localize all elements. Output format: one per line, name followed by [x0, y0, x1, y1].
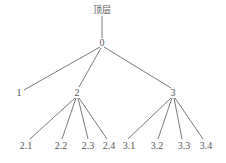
node-2.2-label: 2.2 — [55, 140, 68, 151]
node-2-label: 2 — [75, 87, 80, 98]
node-3.2-label: 3.2 — [151, 140, 164, 151]
node-2.3-label: 2.3 — [82, 140, 95, 151]
edge-0-2 — [79, 48, 101, 87]
node-2.4-label: 2.4 — [103, 140, 116, 151]
node-1-label: 1 — [17, 87, 22, 98]
tree-diagram: 顶层 0 1 2 3 2.1 2.2 2.3 2.4 3.1 3.2 3.3 3… — [0, 0, 226, 163]
edge-0-3 — [104, 47, 171, 88]
node-top-label: 顶层 — [93, 5, 111, 15]
edge-0-1 — [24, 47, 100, 90]
node-3.4-label: 3.4 — [200, 140, 213, 151]
edge-2-2.2 — [62, 98, 76, 139]
node-3.3-label: 3.3 — [178, 140, 191, 151]
node-3.1-label: 3.1 — [123, 140, 136, 151]
edge-3-3.3 — [174, 98, 182, 139]
node-0-label: 0 — [100, 37, 105, 48]
node-2.1-label: 2.1 — [20, 140, 33, 151]
edges — [24, 16, 203, 139]
node-3-label: 3 — [171, 87, 176, 98]
edge-2-2.1 — [30, 98, 75, 139]
edge-3-3.4 — [175, 98, 203, 139]
